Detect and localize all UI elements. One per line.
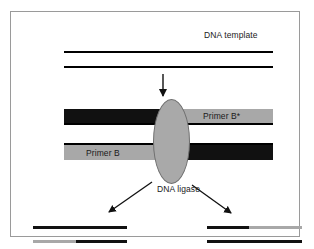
label-layer: DNA template Primer B* Primer B DNA liga… (11, 12, 314, 249)
dna-ligase-label: DNA ligase (157, 184, 200, 194)
primer-b-label: Primer B (86, 148, 120, 158)
dna-template-label: DNA template (204, 30, 258, 40)
figure-root: DNA template Primer B* Primer B DNA liga… (0, 0, 314, 249)
figure-frame: DNA template Primer B* Primer B DNA liga… (10, 11, 300, 237)
primer-b-star-label: Primer B* (203, 111, 240, 121)
